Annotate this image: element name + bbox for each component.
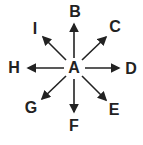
arrow-to-e [82,76,106,100]
label-f: F [69,118,79,134]
label-h: H [8,60,20,76]
arrow-to-c [82,37,106,60]
arrow-to-i [43,37,66,60]
label-g: G [25,100,37,116]
label-c: C [109,19,121,35]
direction-diagram: A B C D E F G H I [0,0,143,145]
label-i: I [33,21,37,37]
arrow-to-g [42,76,66,99]
label-e: E [109,102,120,118]
label-b: B [69,4,81,20]
label-d: D [125,61,137,77]
center-label: A [68,60,80,76]
